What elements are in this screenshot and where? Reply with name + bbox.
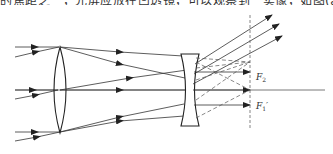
optics-diagram: F2 F1′ (0, 0, 333, 154)
label-F1-prime: F1′ (255, 101, 268, 112)
incoming-rays (15, 47, 60, 141)
intermediate-rays (60, 47, 187, 132)
label-F2: F2 (255, 72, 266, 83)
virtual-ray-extensions (196, 58, 250, 118)
outgoing-rays (193, 15, 282, 105)
